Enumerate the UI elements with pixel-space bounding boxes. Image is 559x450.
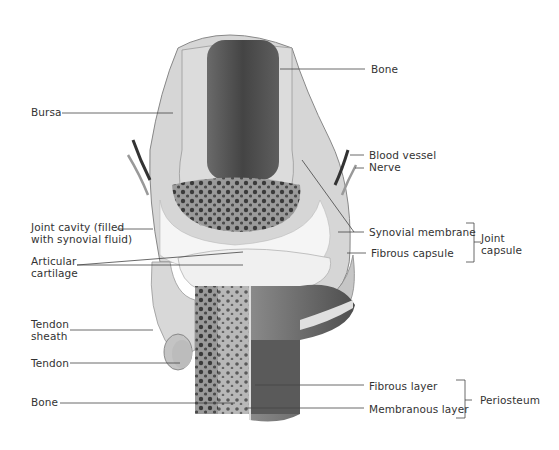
label-text: Tendon	[31, 318, 69, 330]
label-synovial-membrane: Synovial membrane	[369, 226, 476, 238]
label-joint-cavity: Joint cavity (filledwith synovial fluid)	[31, 221, 132, 245]
label-text: Fibrous capsule	[371, 247, 454, 259]
label-text: Nerve	[369, 161, 401, 173]
lower-bone	[195, 285, 355, 422]
label-fibrous-capsule: Fibrous capsule	[371, 247, 454, 259]
label-text: Tendon	[31, 357, 69, 369]
label-joint-capsule: Jointcapsule	[481, 232, 522, 256]
label-membranous-layer: Membranous layer	[369, 403, 469, 415]
label-text: Joint	[481, 232, 522, 244]
label-text: Articular	[31, 255, 78, 267]
label-text: Membranous layer	[369, 403, 469, 415]
label-text: sheath	[31, 330, 69, 342]
label-text: Bone	[371, 63, 398, 75]
label-text: capsule	[481, 244, 522, 256]
label-text: with synovial fluid)	[31, 233, 132, 245]
label-text: Bursa	[31, 106, 62, 118]
label-periosteum: Periosteum	[480, 394, 540, 406]
label-tendon-sheath: Tendonsheath	[31, 318, 69, 342]
label-fibrous-layer: Fibrous layer	[369, 380, 437, 392]
label-bone-lower: Bone	[31, 396, 58, 408]
label-articular-cartilage: Articularcartilage	[31, 255, 78, 279]
label-text: Fibrous layer	[369, 380, 437, 392]
label-text: Bone	[31, 396, 58, 408]
label-nerve: Nerve	[369, 161, 401, 173]
label-tendon: Tendon	[31, 357, 69, 369]
label-text: Joint cavity (filled	[31, 221, 132, 233]
label-text: cartilage	[31, 267, 78, 279]
label-text: Synovial membrane	[369, 226, 476, 238]
label-text: Blood vessel	[369, 149, 436, 161]
label-bursa: Bursa	[31, 106, 62, 118]
label-text: Periosteum	[480, 394, 540, 406]
label-bone-upper: Bone	[371, 63, 398, 75]
label-blood-vessel: Blood vessel	[369, 149, 436, 161]
